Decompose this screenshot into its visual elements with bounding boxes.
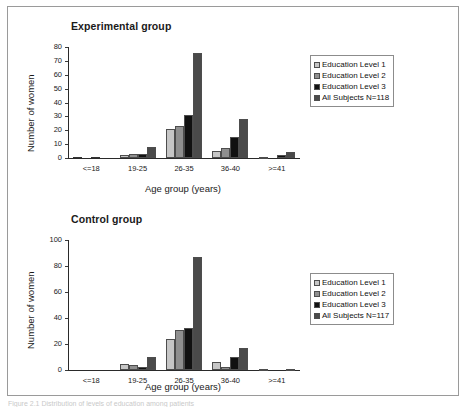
y-axis-tick-label: 10 — [38, 139, 62, 148]
legend-item: Education Level 1 — [314, 277, 389, 288]
bar — [138, 367, 147, 370]
y-axis-line — [68, 240, 69, 371]
y-axis-tick-mark — [65, 266, 68, 267]
x-axis-tick-label: <=18 — [69, 164, 113, 173]
bar — [193, 257, 202, 370]
y-axis-tick-label: 60 — [38, 70, 62, 79]
legend-item: Education Level 1 — [314, 59, 389, 70]
bar — [147, 147, 156, 158]
bar — [129, 154, 138, 158]
bar — [166, 339, 175, 370]
y-axis-tick-mark — [65, 240, 68, 241]
legend-item: Education Level 3 — [314, 81, 389, 92]
legend-experimental: Education Level 1Education Level 2Educat… — [310, 55, 394, 107]
bar — [120, 364, 129, 371]
y-axis-tick-mark — [65, 103, 68, 104]
x-axis-label-experimental: Age group (years) — [68, 183, 298, 194]
bar-zero-mark — [91, 157, 100, 158]
y-axis-tick-mark — [65, 318, 68, 319]
y-axis-tick-mark — [65, 370, 68, 371]
y-axis-tick-mark — [65, 158, 68, 159]
y-axis-tick-mark — [65, 47, 68, 48]
bar — [277, 155, 286, 158]
x-axis-tick-label: >=41 — [255, 164, 299, 173]
legend-swatch-icon — [314, 62, 320, 68]
y-axis-tick-mark — [65, 344, 68, 345]
legend-swatch-icon — [314, 95, 320, 101]
bar — [166, 129, 175, 158]
y-axis-tick-label: 80 — [38, 261, 62, 270]
legend-label: Education Level 1 — [322, 277, 386, 288]
bar — [221, 367, 230, 370]
y-axis-tick-label: 30 — [38, 111, 62, 120]
bar — [286, 152, 295, 158]
figure-frame: Experimental group Number of women 01020… — [7, 6, 459, 396]
y-axis-tick-label: 100 — [38, 235, 62, 244]
bar-zero-mark — [73, 157, 82, 158]
x-axis-tick-label: 26-35 — [162, 164, 206, 173]
bar — [175, 126, 184, 158]
legend-swatch-icon — [314, 280, 320, 286]
y-axis-tick-mark — [65, 144, 68, 145]
y-axis-tick-label: 60 — [38, 287, 62, 296]
legend-label: All Subjects N=117 — [322, 310, 389, 321]
legend-label: Education Level 3 — [322, 81, 386, 92]
y-axis-tick-label: 20 — [38, 339, 62, 348]
y-axis-tick-label: 40 — [38, 98, 62, 107]
x-axis-label-control: Age group (years) — [68, 381, 298, 392]
bar — [184, 115, 193, 158]
bar — [212, 151, 221, 158]
y-axis-tick-mark — [65, 75, 68, 76]
legend-item: Education Level 2 — [314, 70, 389, 81]
legend-swatch-icon — [314, 291, 320, 297]
y-axis-tick-label: 70 — [38, 56, 62, 65]
legend-item: All Subjects N=118 — [314, 92, 389, 103]
legend-label: Education Level 3 — [322, 299, 386, 310]
x-axis-tick-label: 19-25 — [116, 164, 160, 173]
y-axis-line — [68, 47, 69, 159]
bar — [286, 369, 295, 371]
figure-page: Experimental group Number of women 01020… — [0, 0, 469, 415]
bar — [239, 119, 248, 158]
bar — [138, 154, 147, 158]
bar — [129, 365, 138, 370]
bar — [230, 137, 239, 158]
y-axis-tick-label: 50 — [38, 84, 62, 93]
legend-item: Education Level 2 — [314, 288, 389, 299]
bar — [239, 348, 248, 370]
legend-swatch-icon — [314, 73, 320, 79]
bar — [221, 148, 230, 158]
y-axis-tick-mark — [65, 89, 68, 90]
legend-control: Education Level 1Education Level 2Educat… — [310, 273, 394, 325]
legend-item: Education Level 3 — [314, 299, 389, 310]
legend-item: All Subjects N=117 — [314, 310, 389, 321]
y-axis-tick-mark — [65, 130, 68, 131]
bar — [230, 357, 239, 370]
y-axis-tick-label: 20 — [38, 125, 62, 134]
y-axis-tick-mark — [65, 61, 68, 62]
legend-label: Education Level 1 — [322, 59, 386, 70]
legend-label: All Subjects N=118 — [322, 92, 389, 103]
y-axis-tick-mark — [65, 292, 68, 293]
bar — [193, 53, 202, 158]
legend-label: Education Level 2 — [322, 288, 386, 299]
bar — [184, 328, 193, 370]
x-axis-tick-label: 36-40 — [208, 164, 252, 173]
chart-panel-control: Control group Number of women 0204060801… — [8, 199, 460, 396]
legend-swatch-icon — [314, 302, 320, 308]
bar — [147, 357, 156, 370]
legend-swatch-icon — [314, 313, 320, 319]
bar — [120, 155, 129, 158]
y-axis-tick-label: 40 — [38, 313, 62, 322]
y-axis-tick-label: 0 — [38, 153, 62, 162]
bar — [259, 369, 268, 371]
y-axis-tick-label: 80 — [38, 42, 62, 51]
y-axis-tick-mark — [65, 116, 68, 117]
figure-caption: Figure 2.1 Distribution of levels of edu… — [8, 400, 448, 407]
legend-label: Education Level 2 — [322, 70, 386, 81]
bar — [175, 330, 184, 370]
legend-swatch-icon — [314, 84, 320, 90]
y-axis-tick-label: 0 — [38, 365, 62, 374]
bar — [212, 362, 221, 370]
chart-panel-experimental: Experimental group Number of women 01020… — [8, 7, 460, 199]
